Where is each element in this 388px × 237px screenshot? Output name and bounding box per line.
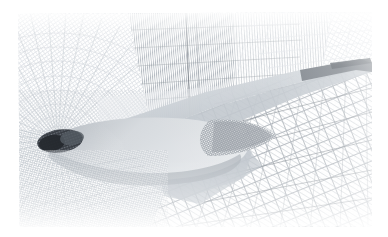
figure-canvas	[0, 0, 388, 237]
cfd-mesh-figure: cfd-surface-mesh-visualization transport…	[0, 0, 388, 237]
mesh-scene	[0, 0, 388, 237]
mesh-content-group	[0, 10, 372, 237]
radial-fade	[18, 12, 372, 229]
